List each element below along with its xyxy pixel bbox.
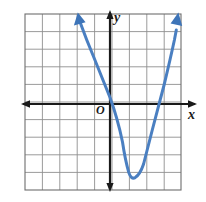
y-axis-label: y: [114, 11, 120, 25]
coordinate-plane-svg: [0, 0, 206, 202]
parabola-graph-figure: y x O: [0, 0, 206, 202]
origin-label: O: [96, 104, 105, 116]
x-axis-label: x: [188, 108, 195, 122]
